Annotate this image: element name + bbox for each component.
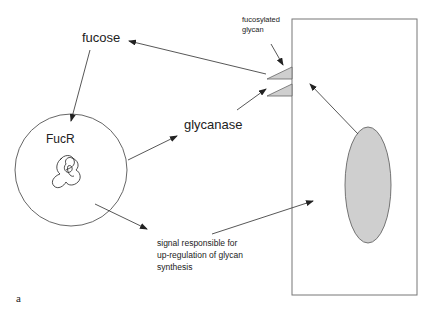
fucr-cell-circle — [15, 114, 127, 226]
arrow-glycan-to-fucose — [129, 41, 266, 74]
signal-label-line3: synthesis — [157, 262, 192, 272]
arrow-label-to-glycan — [271, 44, 283, 65]
nucleus-ellipse — [345, 127, 391, 243]
arrow-signal-to-cell — [212, 201, 313, 234]
signal-label-line1: signal responsible for — [157, 238, 237, 248]
fucosylated-glycan-label-line2: glycan — [242, 25, 264, 34]
signal-label-line2: up-regulation of glycan — [157, 250, 243, 260]
fucose-signaling-diagram: fucose FucR glycanase fucosylated glycan… — [0, 0, 434, 322]
fucr-protein-squiggle-icon — [52, 156, 80, 188]
fucosylated-glycan-triangle-2 — [267, 84, 292, 96]
fucose-label: fucose — [82, 30, 120, 45]
fucosylated-glycan-label-line1: fucosylated — [242, 15, 280, 24]
arrow-nucleus-to-surface — [310, 84, 358, 134]
fucosylated-glycan-triangle-1 — [267, 67, 292, 79]
panel-label: a — [16, 292, 21, 304]
arrow-fucr-to-glycanase — [128, 136, 177, 160]
glycanase-label: glycanase — [184, 117, 243, 132]
arrow-fucose-to-fucr — [71, 50, 90, 121]
fucr-label: FucR — [46, 132, 75, 146]
arrow-glycanase-to-glycan — [237, 89, 266, 110]
